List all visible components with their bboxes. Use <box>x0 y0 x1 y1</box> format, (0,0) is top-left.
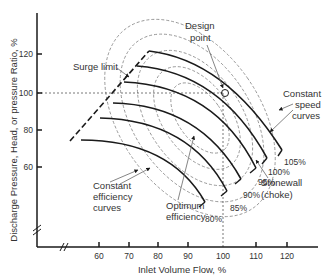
svg-text:efficiency: efficiency <box>93 191 133 202</box>
svg-text:Design: Design <box>185 20 215 31</box>
svg-text:(choke): (choke) <box>261 189 293 200</box>
x-tick-labels: 60 70 80 90 100 110 120 <box>94 251 294 261</box>
svg-text:60: 60 <box>24 162 34 172</box>
design-guide-lines <box>37 93 223 247</box>
svg-text:120: 120 <box>280 251 294 261</box>
svg-text:100%: 100% <box>268 167 290 177</box>
annotation-surge-limit: Surge limit <box>73 61 129 77</box>
svg-text:Constant: Constant <box>93 180 131 191</box>
annotation-constant-efficiency: Constant efficiency curves <box>93 168 150 213</box>
svg-text:curves: curves <box>292 110 320 121</box>
svg-text:90%: 90% <box>243 190 260 200</box>
svg-text:120: 120 <box>19 49 33 59</box>
svg-text:80: 80 <box>153 251 163 261</box>
svg-text:Constant: Constant <box>283 88 321 99</box>
svg-text:100: 100 <box>216 251 230 261</box>
y-axis-label: Discharge Pressure, Head, or pressure Ra… <box>8 38 19 242</box>
svg-text:80: 80 <box>24 125 34 135</box>
y-tick-labels: 120 100 80 60 <box>19 49 33 172</box>
annotation-constant-speed: Constant speed curves <box>270 88 321 132</box>
svg-text:90: 90 <box>183 251 193 261</box>
svg-text:110: 110 <box>249 251 263 261</box>
svg-text:Stonewall: Stonewall <box>261 177 302 188</box>
compressor-map-diagram: 120 100 80 60 60 70 80 90 100 110 120 In… <box>0 0 327 280</box>
svg-text:100: 100 <box>19 88 33 98</box>
svg-text:70: 70 <box>124 251 134 261</box>
svg-text:Optimum: Optimum <box>166 200 205 211</box>
svg-text:60: 60 <box>94 251 104 261</box>
svg-text:85%: 85% <box>230 203 247 213</box>
svg-text:105%: 105% <box>284 157 306 167</box>
svg-text:speed: speed <box>295 99 321 110</box>
svg-text:efficiency: efficiency <box>166 211 206 222</box>
speed-curve-95 <box>124 82 256 168</box>
svg-text:point: point <box>190 32 211 43</box>
x-axis-label: Inlet Volume Flow, % <box>138 264 227 275</box>
svg-text:curves: curves <box>93 202 121 213</box>
svg-text:80%: 80% <box>205 214 222 224</box>
annotation-optimum-efficiency: Optimum efficiency <box>166 136 206 222</box>
svg-text:Surge limit: Surge limit <box>73 61 118 72</box>
